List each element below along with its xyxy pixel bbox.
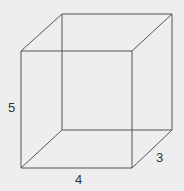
back-face	[62, 14, 172, 130]
bottom-right-depth-edge	[132, 130, 172, 168]
width-label: 4	[75, 172, 82, 187]
depth-label: 3	[156, 150, 163, 165]
top-right-depth-edge	[132, 14, 172, 51]
top-left-depth-edge	[21, 14, 62, 51]
front-face	[21, 51, 132, 168]
height-label: 5	[8, 100, 15, 115]
bottom-left-depth-edge	[21, 130, 62, 168]
prism-diagram: 5 4 3	[0, 0, 184, 191]
depth-edges	[21, 14, 172, 168]
